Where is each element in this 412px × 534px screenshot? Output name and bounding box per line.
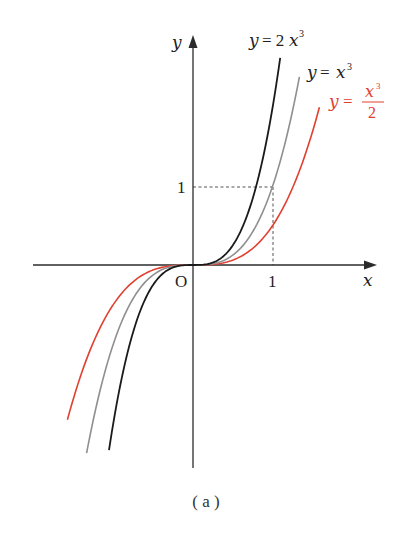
label-black-eq: = 2: [262, 31, 284, 50]
y-axis-label: y: [171, 32, 182, 52]
figure-caption: ( a ): [0, 492, 412, 512]
y-axis-arrow-icon: [189, 35, 198, 48]
label-black-exp: 3: [299, 28, 304, 39]
label-black-x: x: [289, 30, 299, 50]
label-black-y: y: [248, 30, 259, 50]
label-two-x-cubed: y = 2 x 3: [248, 28, 304, 50]
label-gray-eq: =: [320, 63, 330, 82]
label-gray-y: y: [306, 62, 317, 82]
cubic-functions-chart: y x O 1 1 y = 2 x 3 y = x 3 y = x 3 2: [0, 0, 412, 534]
x-tick-1: 1: [268, 272, 277, 291]
label-red-den: 2: [368, 104, 376, 121]
label-red-num-exp: 3: [376, 81, 381, 91]
label-half-x-cubed: y = x 3 2: [328, 81, 384, 121]
label-red-num-x: x: [365, 82, 374, 101]
label-x-cubed: y = x 3: [306, 61, 352, 82]
label-gray-x: x: [336, 62, 346, 82]
y-tick-1: 1: [177, 178, 186, 197]
x-axis-arrow-icon: [364, 261, 377, 270]
origin-label: O: [175, 272, 187, 291]
x-axis-label: x: [363, 270, 373, 290]
label-red-eq: =: [343, 92, 353, 111]
label-red-y: y: [328, 91, 339, 111]
curve-two-x-cubed: [109, 58, 280, 450]
label-gray-exp: 3: [347, 61, 352, 72]
